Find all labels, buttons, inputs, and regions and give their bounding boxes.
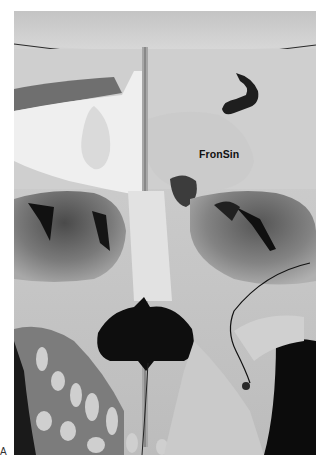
frontal-sinus-label: FronSin [199, 148, 239, 160]
skull-illustration [14, 11, 316, 455]
wire-bead [242, 382, 250, 390]
skull-photograph: FronSin [14, 11, 316, 455]
panel-letter: A [0, 446, 7, 457]
skull-cap [14, 11, 316, 51]
